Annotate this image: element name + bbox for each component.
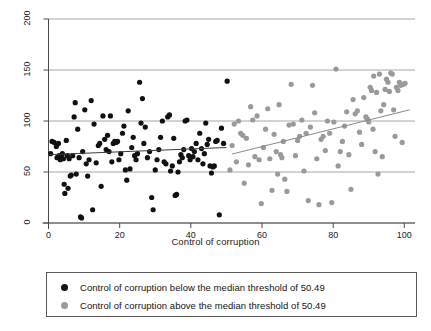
x-axis-title: Control of corruption [0,236,431,247]
data-point [221,141,226,146]
data-point [257,157,262,162]
x-tick-label-40: 40 [176,230,206,240]
data-point [127,166,132,171]
data-point [109,159,114,164]
y-tick-label-100: 100 [22,108,32,132]
data-point [263,127,268,132]
data-point [395,88,400,93]
data-point [135,151,140,156]
data-point [380,154,385,159]
legend-label-above-threshold: Control of corruption above the median t… [80,300,326,311]
data-point [274,149,279,154]
data-point [190,154,195,159]
data-point [392,134,397,139]
data-point [120,131,125,136]
data-point [312,110,317,115]
data-point [301,168,306,173]
legend-marker-below-threshold [61,284,68,291]
data-point [387,89,392,94]
data-point [147,149,152,154]
scatter-series-0 [48,79,230,221]
data-point [215,138,220,143]
data-point [121,124,126,129]
data-point [124,178,129,183]
data-point [346,152,351,157]
data-point [133,157,138,162]
data-point [140,96,145,101]
data-point [160,118,165,123]
scatter-series-1 [227,66,407,207]
data-point [348,187,353,192]
data-point [149,195,154,200]
data-point [90,207,95,212]
data-point [123,167,128,172]
data-point [143,125,148,130]
data-point [338,149,343,154]
data-point [331,119,336,124]
data-point [289,82,294,87]
legend-label-below-threshold: Control of corruption below the median t… [80,282,325,293]
data-point [373,149,378,154]
data-point [75,127,80,132]
data-point [217,212,222,217]
data-point [357,130,362,135]
data-point [282,177,287,182]
data-point [82,107,87,112]
data-point [205,142,210,147]
data-point [156,147,161,152]
data-point [355,108,360,113]
data-point [250,117,255,122]
data-point [89,98,94,103]
data-point [64,138,69,143]
data-point [244,136,249,141]
data-point [175,169,180,174]
data-point [333,66,338,71]
data-point [65,186,70,191]
data-point [79,215,84,220]
data-point [248,104,253,109]
data-point [265,106,270,111]
legend-item-above-threshold: Control of corruption above the median t… [61,297,326,313]
data-point [158,135,163,140]
data-point [325,118,330,123]
data-point [374,90,379,95]
data-point [276,102,281,107]
data-point [163,161,168,166]
data-point [141,141,146,146]
data-point [321,134,326,139]
data-point [308,125,313,130]
data-point [323,148,328,153]
data-point [105,133,110,138]
data-point [100,113,105,118]
data-point [91,121,96,126]
data-point [306,198,311,203]
data-point [106,149,111,154]
data-point [369,88,374,93]
x-tick-label-20: 20 [105,230,135,240]
data-point [252,154,257,159]
chart-legend: Control of corruption below the median t… [46,272,417,317]
data-point [310,83,315,88]
data-point [197,131,202,136]
data-point [86,157,91,162]
gridlines [49,19,416,223]
data-point [195,157,200,162]
data-point [94,160,99,165]
data-point [73,100,78,105]
data-point [203,120,208,125]
axes-spines [43,19,416,229]
data-point [402,81,407,86]
data-point [72,114,77,119]
data-point [293,153,298,158]
data-point [370,127,375,132]
data-point [378,108,383,113]
data-point [170,163,175,168]
data-point [385,80,390,85]
data-point [254,113,259,118]
data-point [291,121,296,126]
data-point [336,163,341,168]
data-point [259,201,264,206]
data-point [129,145,134,150]
legend-item-below-threshold: Control of corruption below the median t… [61,279,325,295]
data-point [192,149,197,154]
